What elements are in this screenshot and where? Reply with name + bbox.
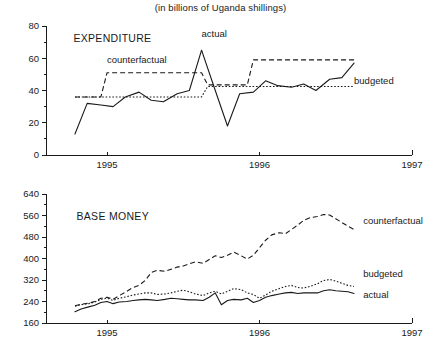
- y-tick-label: 20: [28, 117, 39, 128]
- series-line-counterfactual: [75, 214, 354, 305]
- y-tick-label: 320: [23, 274, 39, 285]
- y-tick-label: 160: [23, 317, 39, 328]
- panel-label-base-money: BASE MONEY: [77, 210, 149, 222]
- series-annotation-actual: actual: [363, 289, 388, 300]
- figure-title: (in billions of Uganda shillings): [0, 2, 441, 13]
- x-tick-label: 1995: [96, 327, 117, 338]
- y-tick-label: 480: [23, 231, 39, 242]
- y-tick-label: 560: [23, 210, 39, 221]
- chart-canvas: 020406080199519961997EXPENDITUREcounterf…: [0, 0, 441, 348]
- series-line-counterfactual: [75, 60, 354, 97]
- x-tick-label: 1997: [401, 159, 422, 170]
- series-annotation-counterfactual: counterfactual: [363, 215, 423, 226]
- x-tick-label: 1997: [401, 327, 422, 338]
- series-annotation-counterfactual: counterfactual: [107, 54, 167, 65]
- x-tick-label: 1996: [249, 159, 270, 170]
- y-tick-label: 60: [28, 53, 39, 64]
- y-tick-label: 0: [34, 149, 39, 160]
- x-tick-label: 1996: [249, 327, 270, 338]
- figure-root: (in billions of Uganda shillings) 020406…: [0, 0, 441, 348]
- series-annotation-budgeted: budgeted: [354, 75, 394, 86]
- y-tick-label: 80: [28, 20, 39, 31]
- axis-lines: [46, 26, 412, 155]
- series-annotation-actual: actual: [202, 28, 227, 39]
- series-annotation-budgeted: budgeted: [363, 268, 403, 279]
- x-tick-label: 1995: [96, 159, 117, 170]
- y-tick-label: 640: [23, 188, 39, 199]
- y-tick-label: 240: [23, 296, 39, 307]
- chart-panel-base-money: 160240320400480560640199519961997BASE MO…: [23, 188, 423, 338]
- y-tick-label: 40: [28, 85, 39, 96]
- chart-panel-expenditure: 020406080199519961997EXPENDITUREcounterf…: [28, 20, 422, 170]
- panel-label-expenditure: EXPENDITURE: [73, 32, 151, 44]
- y-tick-label: 400: [23, 253, 39, 264]
- series-line-actual: [75, 290, 354, 312]
